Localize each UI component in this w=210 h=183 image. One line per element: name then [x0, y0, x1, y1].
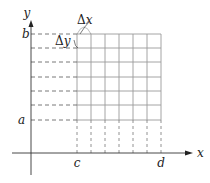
y-axis-arrow-icon — [29, 20, 34, 27]
delta-x-label: Δx — [77, 13, 93, 27]
grid — [77, 34, 161, 120]
x-axis-label: x — [197, 146, 204, 160]
tick-label-c: c — [74, 156, 81, 170]
y-axis-label: y — [23, 6, 31, 20]
tick-label-b: b — [22, 27, 30, 41]
axes — [12, 24, 188, 175]
diagram-canvas: y x b a c d Δx Δy — [0, 0, 210, 183]
vertical-dashed-guides — [77, 120, 161, 153]
x-axis-arrow-icon — [185, 151, 193, 156]
delta-y-label: Δy — [55, 34, 71, 48]
tick-label-d: d — [157, 156, 165, 170]
tick-label-a: a — [18, 113, 25, 127]
